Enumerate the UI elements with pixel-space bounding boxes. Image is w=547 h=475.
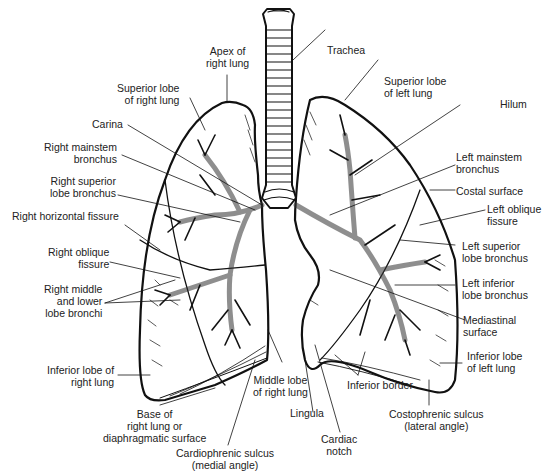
right-lung-illustration xyxy=(140,102,269,401)
lung-diagram xyxy=(0,0,547,475)
label-costal-surface: Costal surface xyxy=(456,185,523,197)
left-lung-illustration xyxy=(295,97,458,393)
trachea-illustration xyxy=(262,9,296,208)
label-mediastinal-surface: Mediastinal surface xyxy=(463,314,516,338)
label-apex-right-lung: Apex of right lung xyxy=(206,45,249,69)
label-left-oblique-fissure: Left oblique fissure xyxy=(487,203,541,227)
label-right-mainstem-bronchus: Right mainstem bronchus xyxy=(44,141,117,165)
label-costophrenic-sulcus: Costophrenic sulcus (lateral angle) xyxy=(389,408,484,432)
label-left-inferior-lobe-bronchus: Left inferior lobe bronchus xyxy=(462,277,528,301)
label-middle-lobe-right: Middle lobe of right lung xyxy=(253,374,308,398)
label-cardiophrenic-sulcus: Cardiophrenic sulcus (medial angle) xyxy=(176,447,274,471)
label-left-mainstem-bronchus: Left mainstem bronchus xyxy=(456,151,522,175)
label-trachea: Trachea xyxy=(327,44,365,56)
label-lingula: Lingula xyxy=(290,407,324,419)
label-carina: Carina xyxy=(92,118,123,130)
label-base-right-lung: Base of right lung or diaphragmatic surf… xyxy=(103,408,206,444)
label-hilum: Hilum xyxy=(500,98,527,110)
label-right-horizontal-fissure: Right horizontal fissure xyxy=(12,210,119,222)
label-inferior-lobe-right: Inferior lobe of right lung xyxy=(47,364,114,388)
label-superior-lobe-right: Superior lobe of right lung xyxy=(117,82,179,106)
label-right-superior-lobe-bronchus: Right superior lobe bronchus xyxy=(50,175,116,199)
label-right-middle-lower-lobe-bronchi: Right middle and lower lobe bronchi xyxy=(44,283,102,319)
label-left-superior-lobe-bronchus: Left superior lobe bronchus xyxy=(462,240,528,264)
label-right-oblique-fissure: Right oblique fissure xyxy=(48,246,109,270)
label-superior-lobe-left: Superior lobe of left lung xyxy=(384,75,446,99)
label-cardiac-notch: Cardiac notch xyxy=(321,433,357,457)
label-inferior-lobe-left: Inferior lobe of left lung xyxy=(467,350,522,374)
label-inferior-border: Inferior border xyxy=(347,379,413,391)
